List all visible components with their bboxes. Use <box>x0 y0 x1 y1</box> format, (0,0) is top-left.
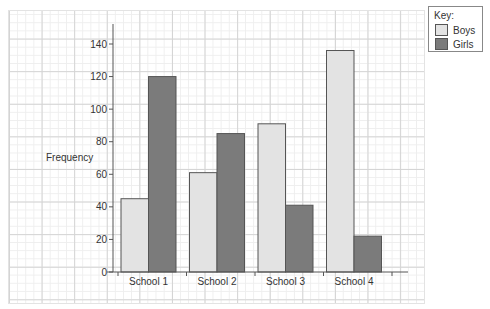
y-tick-label: 100 <box>90 104 107 115</box>
bar-girls <box>217 134 245 272</box>
legend-item-boys: Boys <box>435 24 475 36</box>
y-tick-label: 0 <box>101 267 107 278</box>
bar-boys <box>258 124 286 272</box>
x-tick-label: School 3 <box>266 276 305 287</box>
legend-title: Key: <box>434 10 454 21</box>
legend-swatch-boys <box>435 24 448 36</box>
legend-swatch-girls <box>435 38 448 50</box>
y-tick-label: 60 <box>96 169 108 180</box>
bar-boys <box>190 173 218 272</box>
legend-item-girls: Girls <box>435 38 474 50</box>
y-tick-label: 120 <box>90 71 107 82</box>
legend-label-boys: Boys <box>453 25 475 36</box>
bar-girls <box>286 205 314 272</box>
bar-girls <box>354 236 382 272</box>
y-axis-label: Frequency <box>46 152 93 163</box>
x-tick-label: School 4 <box>335 276 374 287</box>
y-tick-label: 40 <box>96 201 108 212</box>
bar-boys <box>121 199 149 272</box>
y-tick-label: 80 <box>96 136 108 147</box>
y-tick-label: 20 <box>96 234 108 245</box>
bar-girls <box>149 77 177 272</box>
x-tick-label: School 2 <box>198 276 237 287</box>
legend-label-girls: Girls <box>453 39 474 50</box>
x-tick-label: School 1 <box>129 276 168 287</box>
y-tick-label: 140 <box>90 39 107 50</box>
legend: Key: Boys Girls <box>428 6 483 52</box>
bar-boys <box>327 51 355 272</box>
